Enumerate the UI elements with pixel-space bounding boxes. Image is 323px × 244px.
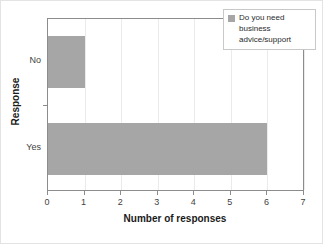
x-tick-mark: [303, 191, 304, 195]
y-tick-mark: [43, 105, 47, 106]
x-tick-label: 1: [72, 197, 96, 207]
y-axis-title: Response: [10, 57, 21, 147]
bar-yes: [48, 123, 267, 175]
x-tick-mark: [230, 191, 231, 195]
legend-label: Do you need business advice/support: [239, 13, 311, 45]
x-tick-mark: [84, 191, 85, 195]
x-tick-label: 3: [145, 197, 169, 207]
x-axis-title: Number of responses: [47, 213, 303, 224]
x-tick-label: 2: [108, 197, 132, 207]
x-tick-label: 4: [181, 197, 205, 207]
x-tick-label: 6: [254, 197, 278, 207]
x-tick-label: 7: [291, 197, 315, 207]
x-tick-mark: [157, 191, 158, 195]
x-tick-label: 5: [218, 197, 242, 207]
legend-swatch-icon: [228, 15, 235, 22]
legend: Do you need business advice/support: [223, 9, 316, 50]
x-tick-mark: [120, 191, 121, 195]
x-tick-mark: [47, 191, 48, 195]
x-tick-mark: [266, 191, 267, 195]
bar-no: [48, 36, 85, 88]
x-tick-label: 0: [35, 197, 59, 207]
x-tick-mark: [193, 191, 194, 195]
bar-chart: 01234567 Number of responses NoYes Respo…: [0, 0, 323, 244]
